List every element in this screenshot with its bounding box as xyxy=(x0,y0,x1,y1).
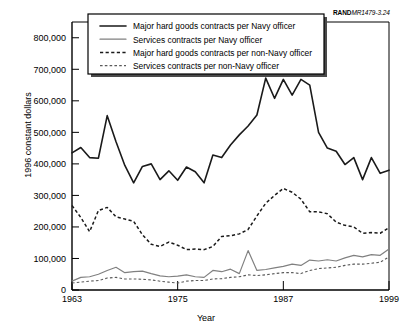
series-layer xyxy=(72,78,389,283)
x-tick-label: 1987 xyxy=(273,294,293,304)
y-tick-label: 500,000 xyxy=(33,128,66,138)
y-axis-label: 1996 constant dollars xyxy=(23,55,33,215)
series-navy-hard-goods xyxy=(72,78,389,183)
source-code: MR1479-3.24 xyxy=(351,9,389,16)
figure-container: RANDMR1479-3.24 1996 constant dollars Ye… xyxy=(0,0,412,333)
y-tick-label: 200,000 xyxy=(33,222,66,232)
series-navy-services xyxy=(72,249,389,281)
y-tick-label: 600,000 xyxy=(33,96,66,106)
x-tick-label: 1963 xyxy=(62,294,82,304)
legend-item-navy-services-label: Services contracts per Navy officer xyxy=(133,35,262,45)
y-tick-label: 100,000 xyxy=(33,254,66,264)
series-nonnavy-hard-goods xyxy=(72,188,389,249)
source-prefix: RAND xyxy=(333,9,351,16)
y-tick-label: 700,000 xyxy=(33,65,66,75)
y-tick-label: 800,000 xyxy=(33,33,66,43)
y-tick-label: 400,000 xyxy=(33,159,66,169)
chart-legend: Major hard goods contracts per Navy offi… xyxy=(88,14,327,77)
x-tick-label: 1999 xyxy=(379,294,399,304)
legend-item-navy-hard-goods-label: Major hard goods contracts per Navy offi… xyxy=(133,21,296,31)
x-tick-label: 1975 xyxy=(168,294,188,304)
legend-item-nonnavy-services-label: Services contracts per non-Navy officer xyxy=(133,61,279,71)
source-label: RANDMR1479-3.24 xyxy=(333,9,390,16)
legend-item-nonnavy-hard-goods-label: Major hard goods contracts per non-Navy … xyxy=(133,48,312,58)
x-axis-label: Year xyxy=(0,313,412,323)
x-axis-ticks: 1963197519871999 xyxy=(62,281,399,304)
y-tick-label: 300,000 xyxy=(33,191,66,201)
chart-svg: 0100,000200,000300,000400,000500,000600,… xyxy=(0,0,412,333)
